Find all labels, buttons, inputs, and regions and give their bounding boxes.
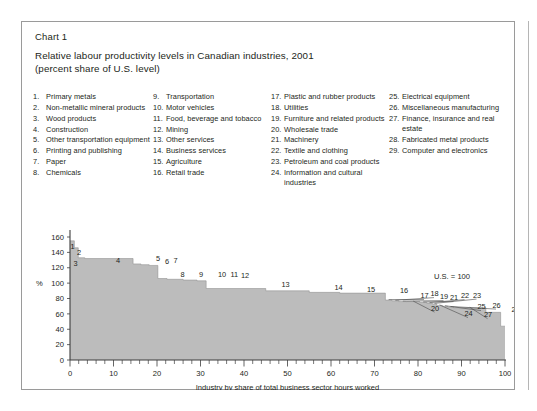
- industry-point-label: 22: [461, 291, 469, 300]
- plot-area: 020406080100120140160%010203040506070809…: [22, 212, 514, 390]
- industry-point-label: 24: [465, 309, 473, 318]
- legend-item-number: 1.: [33, 92, 46, 102]
- legend-item-label: Fabricated metal products: [402, 135, 505, 145]
- legend-item-number: 28.: [389, 135, 402, 145]
- industry-point-label: 5: [156, 254, 160, 263]
- legend-item-number: 7.: [33, 157, 46, 167]
- legend-item-label: Printing and publishing: [46, 146, 153, 156]
- legend-column-3: 17.Plastic and rubber products 18.Utilit…: [271, 92, 389, 189]
- legend-item-label: Electrical equipment: [402, 92, 505, 102]
- x-axis-title: Industry by share of total business sect…: [196, 383, 379, 390]
- legend-item-number: 23.: [271, 157, 284, 167]
- x-axis-tick-label: 50: [283, 369, 291, 378]
- industry-point-label: 4: [116, 256, 120, 265]
- industry-point-label: 23: [473, 291, 481, 300]
- legend-item: 28.Fabricated metal products: [389, 135, 505, 145]
- legend-item-label: Wood products: [46, 114, 153, 124]
- legend-item-number: 5.: [33, 135, 46, 145]
- y-axis-tick-label: 100: [51, 279, 64, 288]
- industry-point-label: 1: [71, 242, 75, 251]
- legend-item-number: 11.: [153, 114, 166, 124]
- legend-item-number: 29.: [389, 146, 402, 156]
- legend-item: 23.Petroleum and coal products: [271, 157, 389, 167]
- industry-point-label: 18: [431, 289, 439, 298]
- legend-item-label: Construction: [46, 125, 153, 135]
- x-axis-tick-label: 70: [370, 369, 378, 378]
- legend-item: 15.Agriculture: [153, 157, 271, 167]
- x-axis-tick-label: 100: [499, 369, 512, 378]
- legend-item-number: 26.: [389, 103, 402, 113]
- legend-item-label: Finance, insurance and real estate: [402, 114, 505, 135]
- legend-item-label: Motor vehicles: [166, 103, 271, 113]
- industry-point-label: 14: [335, 283, 343, 292]
- x-axis-tick-label: 60: [327, 369, 335, 378]
- legend-item: 20.Wholesale trade: [271, 125, 389, 135]
- legend-item: 25.Electrical equipment: [389, 92, 505, 102]
- legend-item: 4.Construction: [33, 125, 153, 135]
- legend-item-number: 22.: [271, 146, 284, 156]
- legend-item: 22.Textile and clothing: [271, 146, 389, 156]
- legend-item: 12.Mining: [153, 125, 271, 135]
- legend-item-label: Other services: [166, 135, 271, 145]
- industry-point-label: 13: [282, 280, 290, 289]
- legend-column-4: 25.Electrical equipment 26.Miscellaneous…: [389, 92, 505, 189]
- y-axis-tick-label: 120: [51, 263, 64, 272]
- legend-item-label: Non-metallic mineral products: [46, 103, 153, 113]
- legend-item: 14.Business services: [153, 146, 271, 156]
- x-axis-tick-label: 90: [457, 369, 465, 378]
- y-axis-tick-label: 140: [51, 248, 64, 257]
- industry-point-label: 16: [400, 286, 408, 295]
- y-axis-tick-label: 160: [51, 233, 64, 242]
- legend-item-label: Machinery: [284, 135, 389, 145]
- x-axis-tick-label: 20: [153, 369, 161, 378]
- y-axis-tick-label: 60: [56, 310, 64, 319]
- industry-point-label: 11: [231, 270, 239, 279]
- legend-item-number: 8.: [33, 168, 46, 178]
- legend-item-number: 13.: [153, 135, 166, 145]
- legend-item-label: Chemicals: [46, 168, 153, 178]
- legend-item: 11.Food, beverage and tobacco: [153, 114, 271, 124]
- legend-item-label: Transportation: [166, 92, 271, 102]
- legend-item-number: 17.: [271, 92, 284, 102]
- industry-point-label: 26: [493, 301, 501, 310]
- legend-item: 5.Other transportation equipment: [33, 135, 153, 145]
- y-axis-tick-label: 40: [56, 325, 64, 334]
- legend-item-number: 4.: [33, 125, 46, 135]
- legend-item: 27.Finance, insurance and real estate: [389, 114, 505, 135]
- legend-item: 17.Plastic and rubber products: [271, 92, 389, 102]
- legend-item-label: Agriculture: [166, 157, 271, 167]
- legend-item: 2.Non-metallic mineral products: [33, 103, 153, 113]
- legend-item-number: 21.: [271, 135, 284, 145]
- x-axis-tick-label: 40: [240, 369, 248, 378]
- industry-point-label: 7: [174, 256, 178, 265]
- legend-item-label: Wholesale trade: [284, 125, 389, 135]
- legend-item-label: Utilities: [284, 103, 389, 113]
- x-axis-tick-label: 80: [414, 369, 422, 378]
- legend-item: 10.Motor vehicles: [153, 103, 271, 113]
- legend-item: 7.Paper: [33, 157, 153, 167]
- legend-item: 3.Wood products: [33, 114, 153, 124]
- industry-point-label: 19: [440, 292, 448, 301]
- legend-item-label: Furniture and related products: [284, 114, 389, 124]
- y-axis-title: %: [36, 279, 43, 288]
- legend-item: 13.Other services: [153, 135, 271, 145]
- legend-item: 9.Transportation: [153, 92, 271, 102]
- industry-point-label: 28: [512, 305, 515, 314]
- legend-item: 16.Retail trade: [153, 168, 271, 178]
- legend-item: 24.Information and cultural industries: [271, 168, 389, 189]
- legend-item-number: 20.: [271, 125, 284, 135]
- legend-item-label: Information and cultural industries: [284, 168, 389, 189]
- legend-item-label: Food, beverage and tobacco: [166, 114, 271, 124]
- x-axis-tick-label: 0: [68, 369, 72, 378]
- legend-item-label: Other transportation equipment: [46, 135, 153, 145]
- industry-point-label: 9: [199, 270, 203, 279]
- industry-point-label: 10: [218, 270, 226, 279]
- industry-point-label: 12: [241, 271, 249, 280]
- legend-item-label: Plastic and rubber products: [284, 92, 389, 102]
- legend-item-number: 2.: [33, 103, 46, 113]
- legend-item-label: Paper: [46, 157, 153, 167]
- legend-item-number: 19.: [271, 114, 284, 124]
- legend-item: 29.Computer and electronics: [389, 146, 505, 156]
- legend-column-1: 1.Primary metals 2.Non-metallic mineral …: [33, 92, 153, 189]
- legend-item: 18.Utilities: [271, 103, 389, 113]
